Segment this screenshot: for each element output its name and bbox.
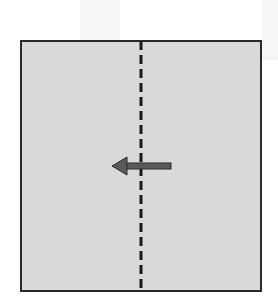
fold-diagram	[0, 0, 278, 302]
